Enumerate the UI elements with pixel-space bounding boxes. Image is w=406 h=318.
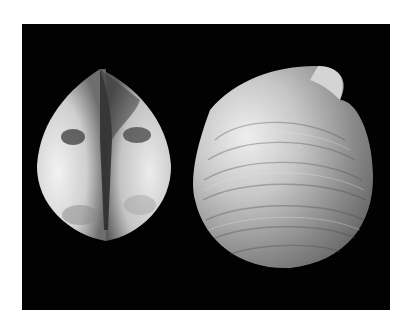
- right-shell: [193, 66, 373, 268]
- shells-illustration: [0, 0, 406, 318]
- left-shell: [37, 69, 171, 241]
